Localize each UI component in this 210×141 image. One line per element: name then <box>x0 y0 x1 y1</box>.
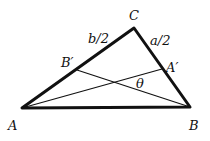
vertex-label-A: A <box>7 118 17 133</box>
midpoint-label-B-prime: B′ <box>60 55 74 70</box>
triangle-diagram: A B C B′ A′ b/2 a/2 θ <box>0 0 210 141</box>
midpoint-label-A-prime: A′ <box>165 60 178 75</box>
vertex-label-B: B <box>188 118 199 133</box>
side-label-b-half: b/2 <box>88 31 109 46</box>
vertex-label-C: C <box>129 8 139 23</box>
side-label-a-half: a/2 <box>150 33 170 48</box>
angle-label-theta: θ <box>136 76 144 91</box>
